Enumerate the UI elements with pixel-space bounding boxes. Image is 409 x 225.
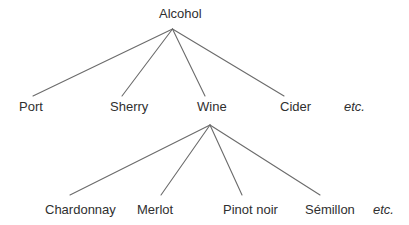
node-cider: Cider (280, 100, 311, 113)
node-sherry: Sherry (110, 100, 148, 113)
node-etc-level2: etc. (373, 203, 394, 216)
edge-alcohol-port (33, 29, 173, 96)
node-merlot: Merlot (137, 203, 173, 216)
node-wine: Wine (197, 100, 227, 113)
node-chardonnay: Chardonnay (45, 203, 116, 216)
node-alcohol: Alcohol (159, 7, 202, 20)
node-pinot-noir: Pinot noir (223, 203, 278, 216)
edge-alcohol-sherry (122, 29, 173, 96)
node-port: Port (19, 100, 43, 113)
node-semillon: Sémillon (305, 203, 355, 216)
edge-wine-merlot (161, 125, 210, 195)
node-etc-level1: etc. (344, 100, 365, 113)
tree-diagram: Alcohol Port Sherry Wine Cider etc. Char… (0, 0, 409, 225)
edge-wine-chardonnay (70, 125, 210, 195)
